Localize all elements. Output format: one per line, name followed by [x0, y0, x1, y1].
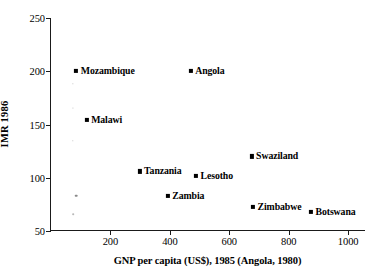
data-point[interactable]: [137, 169, 141, 173]
data-point[interactable]: [249, 154, 253, 158]
y-axis-tick: [46, 71, 51, 72]
y-axis-tick: [46, 178, 51, 179]
y-axis-tick-label: 50: [35, 226, 45, 237]
plot-area: 501001502002502004006008001000Mozambique…: [50, 18, 365, 231]
scan-artifact: [72, 140, 73, 141]
data-point-label: Mozambique: [81, 65, 135, 76]
scan-artifact: [75, 195, 78, 198]
data-point-label: Swaziland: [256, 150, 298, 161]
x-axis-tick-label: 800: [281, 236, 296, 247]
x-axis-tick: [229, 230, 230, 235]
x-axis-tick-label: 1000: [338, 236, 359, 247]
x-axis-tick-label: 400: [162, 236, 177, 247]
y-axis-tick: [46, 18, 51, 19]
data-point[interactable]: [189, 69, 193, 73]
data-point-label: Zambia: [172, 189, 204, 200]
scan-artifact: [72, 213, 74, 215]
y-axis-tick: [46, 125, 51, 126]
x-axis-tick: [289, 230, 290, 235]
data-point[interactable]: [251, 204, 255, 208]
y-axis-tick-label: 100: [30, 172, 45, 183]
x-axis-title: GNP per capita (US$), 1985 (Angola, 1980…: [50, 255, 365, 266]
data-point[interactable]: [74, 69, 78, 73]
y-axis-tick-label: 150: [30, 119, 45, 130]
data-point-label: Lesotho: [201, 169, 234, 180]
data-point[interactable]: [194, 174, 198, 178]
scan-artifact: [72, 107, 73, 108]
y-axis-tick-label: 250: [30, 13, 45, 24]
data-point[interactable]: [309, 210, 313, 214]
y-axis-tick: [46, 231, 51, 232]
y-axis-tick-label: 200: [30, 66, 45, 77]
x-axis-tick-label: 600: [222, 236, 237, 247]
scan-artifact: [72, 83, 73, 84]
data-point[interactable]: [166, 194, 170, 198]
scatter-chart-figure: 501001502002502004006008001000Mozambique…: [0, 0, 377, 278]
data-point-label: Botswana: [316, 205, 356, 216]
x-axis-tick: [348, 230, 349, 235]
y-axis-title: IMR 1986: [0, 101, 10, 148]
x-axis-tick-label: 200: [103, 236, 118, 247]
data-point-label: Angola: [195, 65, 224, 76]
data-point-label: Malawi: [91, 114, 122, 125]
x-axis-tick: [170, 230, 171, 235]
data-point-label: Zimbabwe: [258, 200, 302, 211]
data-point-label: Tanzania: [144, 165, 182, 176]
data-point[interactable]: [85, 118, 89, 122]
x-axis-tick: [110, 230, 111, 235]
